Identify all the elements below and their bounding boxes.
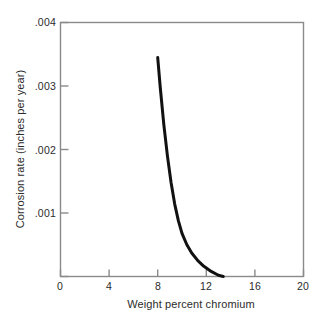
x-tick-label-20: 20 bbox=[297, 280, 309, 292]
x-tick-label-4: 4 bbox=[106, 280, 112, 292]
x-tick-label-0: 0 bbox=[57, 280, 63, 292]
corrosion-rate-curve bbox=[158, 57, 224, 276]
x-tick-label-16: 16 bbox=[249, 280, 261, 292]
y-tick-label-001: .001 bbox=[35, 207, 56, 219]
x-axis-title-text: Weight percent chromium bbox=[127, 298, 254, 310]
plot-frame bbox=[61, 23, 304, 277]
chart-figure: 0 4 8 12 16 20 .004 .003 .002 .001 Weigh… bbox=[0, 0, 322, 324]
y-tick-marks bbox=[61, 23, 69, 277]
y-axis-title: Corrosion rate (inches per year) bbox=[14, 22, 30, 276]
x-tick-label-8: 8 bbox=[155, 280, 161, 292]
y-tick-label-002: .002 bbox=[35, 144, 56, 156]
y-tick-label-004: .004 bbox=[35, 16, 56, 28]
x-axis-title: Weight percent chromium bbox=[0, 298, 322, 310]
x-tick-marks bbox=[61, 270, 304, 277]
x-tick-label-12: 12 bbox=[200, 280, 212, 292]
y-tick-label-003: .003 bbox=[35, 80, 56, 92]
plot-area bbox=[0, 0, 322, 324]
